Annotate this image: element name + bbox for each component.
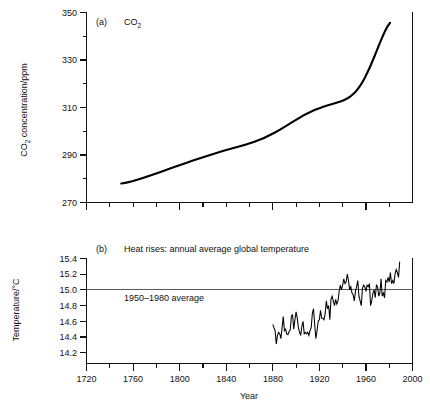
xtick-1800: 1800: [170, 374, 190, 384]
xtick-1960: 1960: [356, 374, 376, 384]
panel-a-y-tick-labels: 350 330 310 290 270: [62, 8, 77, 208]
reference-line-label: 1950–1980 average: [124, 293, 204, 303]
panel-b-y-tick-labels: 15.4 15.2 15.0 14.8 14.6 14.4 14.2: [59, 254, 77, 358]
panel-a-title: CO2: [124, 17, 142, 29]
x-axis-tick-labels: 1720 1760 1800 1840 1880 1920 1960 2000: [76, 374, 422, 384]
panel-a-ytick-350: 350: [62, 8, 77, 18]
co2-concentration-curve: [121, 23, 390, 184]
xtick-1880: 1880: [263, 374, 283, 384]
panel-a-x-ticks: [87, 203, 390, 211]
panel-a-y-axis-title: CO2 concentration/ppm: [19, 63, 31, 157]
panel-b-label: (b): [96, 244, 107, 254]
panel-b-ytick-14-2: 14.2: [59, 348, 77, 358]
panel-b-ytick-15-4: 15.4: [59, 254, 77, 264]
panel-a-co2: CO2 concentration/ppm (a) CO2 350: [19, 8, 413, 210]
panel-b-y-ticks: [80, 259, 87, 353]
panel-a-ytick-310: 310: [62, 103, 77, 113]
global-temperature-series: [273, 262, 400, 344]
panel-b-x-ticks: [87, 364, 413, 372]
panel-b-ytick-15-0: 15.0: [59, 285, 77, 295]
panel-b-ytick-14-6: 14.6: [59, 317, 77, 327]
panel-a-y-ticks-major: [80, 13, 87, 203]
panel-b-y-axis-title: Temperature/°C: [11, 278, 21, 342]
x-axis-title: Year: [240, 391, 258, 401]
panel-b-ytick-14-4: 14.4: [59, 332, 77, 342]
panel-b-title: Heat rises: annual average global temper…: [124, 244, 309, 254]
climate-figure: CO2 concentration/ppm (a) CO2 350: [0, 0, 430, 412]
xtick-1760: 1760: [123, 374, 143, 384]
xtick-2000: 2000: [402, 374, 422, 384]
panel-b-ytick-15-2: 15.2: [59, 269, 77, 279]
xtick-1720: 1720: [76, 374, 96, 384]
xtick-1920: 1920: [309, 374, 329, 384]
panel-a-ytick-330: 330: [62, 55, 77, 65]
panel-a-ytick-270: 270: [62, 198, 77, 208]
panel-a-label: (a): [96, 17, 107, 27]
panel-a-ytick-290: 290: [62, 150, 77, 160]
panel-b-temperature: Temperature/°C (b) Heat rises: annual av…: [11, 244, 423, 401]
xtick-1840: 1840: [216, 374, 236, 384]
panel-b-ytick-14-8: 14.8: [59, 301, 77, 311]
